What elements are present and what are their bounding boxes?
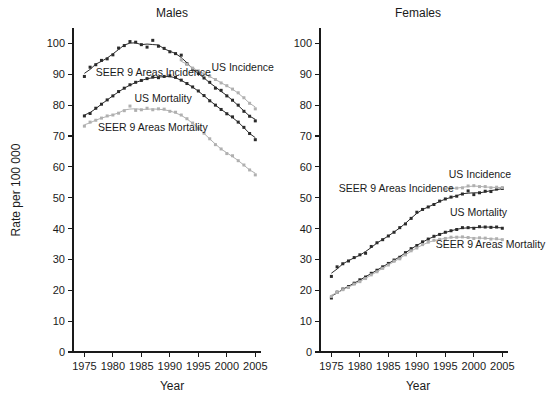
y-tick-label: 20 xyxy=(300,284,312,296)
y-tick-label: 0 xyxy=(59,346,65,358)
data-point-marker xyxy=(134,81,137,84)
data-point-marker xyxy=(117,47,120,50)
data-point-marker xyxy=(358,280,361,283)
data-point-marker xyxy=(353,256,356,259)
data-point-marker xyxy=(254,138,257,141)
data-point-marker xyxy=(140,79,143,82)
data-point-marker xyxy=(128,40,131,43)
data-point-marker xyxy=(478,225,481,228)
panel-title-females: Females xyxy=(395,6,441,20)
data-point-marker xyxy=(438,233,441,236)
data-point-marker xyxy=(248,132,251,135)
data-point-marker xyxy=(220,89,223,92)
data-point-marker xyxy=(168,110,171,113)
data-point-marker xyxy=(214,87,217,90)
data-point-marker xyxy=(387,263,390,266)
x-tick-label: 2000 xyxy=(215,360,239,372)
data-point-marker xyxy=(208,81,211,84)
data-point-marker xyxy=(341,288,344,291)
data-point-marker xyxy=(208,137,211,140)
data-point-marker xyxy=(140,108,143,111)
data-point-marker xyxy=(248,168,251,171)
data-point-marker xyxy=(89,121,92,124)
x-tick-label: 2005 xyxy=(243,360,267,372)
data-point-marker xyxy=(231,88,234,91)
data-point-marker xyxy=(220,81,223,84)
y-tick-label: 30 xyxy=(53,253,65,265)
y-tick-label: 30 xyxy=(300,253,312,265)
data-point-marker xyxy=(364,277,367,280)
data-point-marker xyxy=(140,43,143,46)
data-point-marker xyxy=(157,107,160,110)
y-tick-label: 10 xyxy=(300,315,312,327)
series-annotation-label: SEER 9 Areas Incidence xyxy=(96,66,211,78)
data-point-marker xyxy=(203,94,206,97)
x-axis-title: Year xyxy=(160,379,184,393)
data-point-marker xyxy=(467,226,470,229)
data-point-marker xyxy=(444,231,447,234)
data-point-marker xyxy=(123,44,126,47)
data-point-marker xyxy=(484,190,487,193)
data-point-marker xyxy=(415,211,418,214)
data-point-marker xyxy=(467,189,470,192)
data-point-marker xyxy=(220,108,223,111)
data-point-marker xyxy=(128,83,131,86)
y-tick-label: 100 xyxy=(294,37,312,49)
series-annotation-label: US Mortality xyxy=(135,92,193,104)
data-point-marker xyxy=(180,58,183,61)
data-point-marker xyxy=(225,152,228,155)
data-point-marker xyxy=(375,270,378,273)
data-point-marker xyxy=(117,90,120,93)
data-point-marker xyxy=(180,79,183,82)
y-tick-label: 0 xyxy=(306,346,312,358)
data-point-marker xyxy=(174,111,177,114)
y-tick-label: 90 xyxy=(300,68,312,80)
data-point-marker xyxy=(83,114,86,117)
data-point-marker xyxy=(427,238,430,241)
data-point-marker xyxy=(242,110,245,113)
data-point-marker xyxy=(151,39,154,42)
data-point-marker xyxy=(157,45,160,48)
series-annotation-label: SEER 9 Areas Mortality xyxy=(436,238,546,250)
data-point-marker xyxy=(495,226,498,229)
data-point-marker xyxy=(455,187,458,190)
y-tick-label: 40 xyxy=(53,223,65,235)
data-point-marker xyxy=(134,41,137,44)
data-point-marker xyxy=(330,295,333,298)
data-point-marker xyxy=(168,50,171,53)
data-point-marker xyxy=(106,98,109,101)
y-tick-label: 80 xyxy=(53,99,65,111)
y-tick-label: 60 xyxy=(53,161,65,173)
data-point-marker xyxy=(450,196,453,199)
x-axis-title: Year xyxy=(406,379,430,393)
data-point-marker xyxy=(174,52,177,55)
x-tick-label: 1980 xyxy=(348,360,372,372)
x-tick-label: 1990 xyxy=(158,360,182,372)
data-point-marker xyxy=(146,46,149,49)
data-point-marker xyxy=(461,186,464,189)
x-tick-label: 1975 xyxy=(319,360,343,372)
data-point-marker xyxy=(242,164,245,167)
data-point-marker xyxy=(336,291,339,294)
data-point-marker xyxy=(237,104,240,107)
series-annotation-label: US Incidence xyxy=(211,61,274,73)
x-tick-label: 1990 xyxy=(405,360,429,372)
data-point-marker xyxy=(461,226,464,229)
data-point-marker xyxy=(208,99,211,102)
data-point-marker xyxy=(111,94,114,97)
data-point-marker xyxy=(461,193,464,196)
data-point-marker xyxy=(248,102,251,105)
data-point-marker xyxy=(421,243,424,246)
data-point-marker xyxy=(254,173,257,176)
data-point-marker xyxy=(455,195,458,198)
data-point-marker xyxy=(472,184,475,187)
data-point-marker xyxy=(123,87,126,90)
data-point-marker xyxy=(197,89,200,92)
data-point-marker xyxy=(393,231,396,234)
data-point-marker xyxy=(185,117,188,120)
series-annotation-label: US Mortality xyxy=(450,206,508,218)
data-point-marker xyxy=(427,205,430,208)
data-point-marker xyxy=(89,66,92,69)
data-point-marker xyxy=(398,257,401,260)
data-point-marker xyxy=(94,119,97,122)
